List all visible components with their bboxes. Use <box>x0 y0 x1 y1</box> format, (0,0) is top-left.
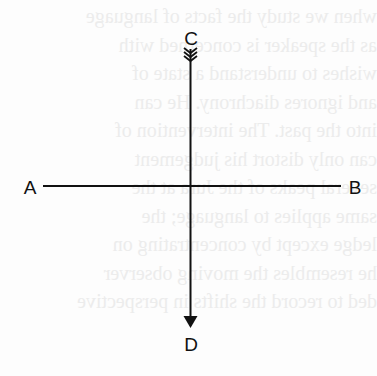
label-d: D <box>184 335 198 354</box>
diagram-canvas: when we study the facts of language as t… <box>0 0 377 376</box>
label-a: A <box>24 178 37 197</box>
arrowhead-down-icon <box>184 316 198 328</box>
label-b: B <box>349 178 362 197</box>
label-c: C <box>184 29 198 48</box>
axes-diagram <box>0 0 377 376</box>
